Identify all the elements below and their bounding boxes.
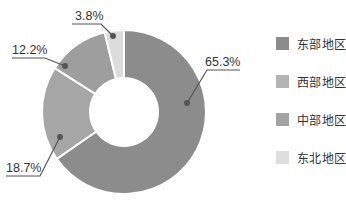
data-label: 3.8%: [75, 9, 104, 23]
leader-dot: [57, 134, 63, 140]
legend-swatch: [276, 113, 289, 126]
legend-label: 东部地区: [297, 35, 346, 52]
legend-swatch: [276, 75, 289, 88]
data-label: 12.2%: [12, 43, 47, 57]
legend-item-west[interactable]: 西部地区: [276, 74, 341, 88]
legend-item-central[interactable]: 中部地区: [276, 112, 341, 126]
leader-dot: [110, 33, 116, 39]
legend-item-east[interactable]: 东部地区: [276, 36, 341, 50]
leader-dot: [184, 100, 190, 106]
legend-swatch: [276, 37, 289, 50]
leader-dot: [62, 63, 68, 69]
legend: 东部地区 西部地区 中部地区 东北地区: [276, 36, 341, 188]
data-label: 18.7%: [6, 161, 41, 175]
data-label: 65.3%: [205, 55, 240, 69]
legend-item-northeast[interactable]: 东北地区: [276, 150, 341, 164]
donut-slices: [42, 30, 206, 194]
legend-label: 中部地区: [297, 111, 346, 128]
legend-label: 东北地区: [297, 149, 346, 166]
legend-label: 西部地区: [297, 73, 346, 90]
legend-swatch: [276, 151, 289, 164]
